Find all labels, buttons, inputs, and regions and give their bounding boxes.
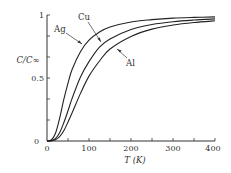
arrow-head-ag [78, 40, 83, 44]
y-tick-0.5: 0.5 [31, 74, 44, 83]
x-tick-0: 0 [44, 144, 49, 153]
label-cu: Cu [78, 12, 91, 22]
y-axis-label: C/C∞ [17, 55, 40, 65]
chart-canvas: 0 0.5 1 0 100 200 300 400 T (K) C/C∞ Ag … [0, 0, 231, 173]
x-tick-400: 400 [205, 144, 220, 153]
x-axis-label: T (K) [124, 155, 145, 165]
y-tick-1: 1 [39, 11, 44, 20]
y-tick-0: 0 [34, 137, 39, 146]
x-tick-100: 100 [81, 144, 96, 153]
curve-al [47, 21, 215, 141]
heat-capacity-chart: 0 0.5 1 0 100 200 300 400 T (K) C/C∞ Ag … [0, 0, 231, 173]
arrow-head-cu [97, 38, 101, 43]
x-tick-300: 300 [165, 144, 180, 153]
ticks [47, 15, 215, 141]
label-al: Al [125, 58, 135, 68]
curve-ag [47, 17, 215, 141]
axes [47, 15, 215, 141]
label-ag: Ag [53, 24, 66, 34]
x-tick-200: 200 [123, 144, 138, 153]
